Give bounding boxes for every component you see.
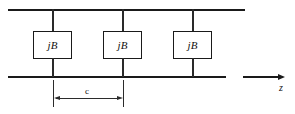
dimension-arrowhead-left bbox=[54, 96, 60, 100]
stub-lower-3 bbox=[192, 58, 194, 77]
shunt-element-3-label: jB bbox=[187, 40, 197, 51]
axis-label-z: z bbox=[279, 83, 283, 93]
dimension-label-c: c bbox=[85, 87, 89, 96]
top-conductor-line bbox=[8, 9, 245, 11]
shunt-element-2-label: jB bbox=[117, 40, 127, 51]
axis-segment bbox=[243, 76, 279, 78]
axis-arrowhead-icon bbox=[278, 74, 285, 80]
shunt-element-1-label: jB bbox=[47, 40, 57, 51]
stub-upper-1 bbox=[52, 9, 54, 32]
stub-upper-3 bbox=[192, 9, 194, 32]
shunt-element-1: jB bbox=[33, 31, 72, 59]
stub-lower-1 bbox=[52, 58, 54, 77]
shunt-element-2: jB bbox=[103, 31, 142, 59]
dimension-line-c bbox=[56, 98, 120, 99]
stub-upper-2 bbox=[122, 9, 124, 32]
stub-lower-2 bbox=[122, 58, 124, 77]
dimension-arrowhead-right bbox=[117, 96, 123, 100]
transmission-line-figure: jB jB jB c z bbox=[0, 0, 295, 114]
dimension-extension-left bbox=[53, 80, 54, 107]
shunt-element-3: jB bbox=[173, 31, 212, 59]
dimension-extension-right bbox=[123, 80, 124, 107]
